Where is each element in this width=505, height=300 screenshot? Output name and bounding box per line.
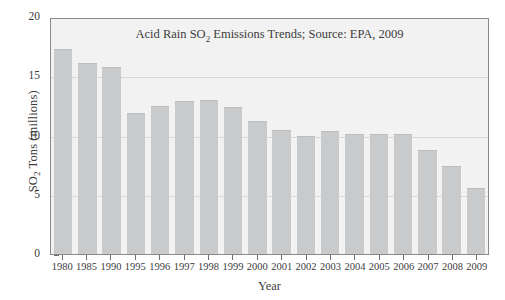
x-tick-label: 1990	[100, 261, 121, 272]
bar[interactable]	[127, 113, 145, 254]
x-tick-mark	[110, 255, 111, 260]
x-axis-tickmarks	[50, 255, 489, 260]
bar-slot	[221, 19, 245, 254]
bar-series	[51, 19, 488, 254]
x-tick-mark	[257, 255, 258, 260]
bar[interactable]	[78, 63, 96, 254]
bar-slot	[124, 19, 148, 254]
x-tick-slot	[148, 255, 172, 260]
y-tick-label: 5	[14, 188, 40, 200]
x-tick-mark	[452, 255, 453, 260]
y-tick-label: 10	[14, 129, 40, 141]
x-label-slot: 2009	[465, 261, 489, 272]
x-label-slot: 2006	[391, 261, 415, 272]
x-tick-slot	[245, 255, 269, 260]
bar-slot	[148, 19, 172, 254]
x-tick-slot	[343, 255, 367, 260]
bar-slot	[270, 19, 294, 254]
x-label-slot: 2000	[245, 261, 269, 272]
x-label-slot: 2007	[416, 261, 440, 272]
x-label-slot: 1997	[172, 261, 196, 272]
x-tick-slot	[270, 255, 294, 260]
x-label-slot: 1998	[196, 261, 220, 272]
x-tick-label: 2009	[466, 261, 487, 272]
bar-slot	[294, 19, 318, 254]
bar[interactable]	[272, 130, 290, 254]
x-label-slot: 1996	[148, 261, 172, 272]
x-tick-slot	[50, 255, 74, 260]
bar-slot	[51, 19, 75, 254]
x-axis-title: Year	[50, 279, 489, 294]
x-tick-label: 2000	[247, 261, 268, 272]
x-tick-label: 2008	[442, 261, 463, 272]
x-tick-slot	[172, 255, 196, 260]
chart-title: Acid Rain SO2 Emissions Trends; Source: …	[50, 27, 489, 44]
bar[interactable]	[175, 101, 193, 254]
y-tick-label: 0	[14, 247, 40, 259]
x-tick-mark	[403, 255, 404, 260]
bar-slot	[342, 19, 366, 254]
x-tick-mark	[62, 255, 63, 260]
x-tick-slot	[440, 255, 464, 260]
x-tick-label: 2006	[393, 261, 414, 272]
x-tick-slot	[221, 255, 245, 260]
x-label-slot: 1985	[74, 261, 98, 272]
x-tick-label: 2007	[418, 261, 439, 272]
x-tick-slot	[318, 255, 342, 260]
x-tick-mark	[379, 255, 380, 260]
bar[interactable]	[102, 67, 120, 254]
x-tick-slot	[123, 255, 147, 260]
x-tick-slot	[391, 255, 415, 260]
plot-area	[50, 18, 489, 255]
x-label-slot: 1999	[221, 261, 245, 272]
bar[interactable]	[248, 121, 266, 254]
x-tick-mark	[281, 255, 282, 260]
bar[interactable]	[370, 134, 388, 254]
x-label-slot: 1995	[123, 261, 147, 272]
x-tick-label: 1995	[125, 261, 146, 272]
x-tick-mark	[232, 255, 233, 260]
bar[interactable]	[321, 131, 339, 254]
x-tick-label: 1980	[52, 261, 73, 272]
x-axis-tick-labels: 1980198519901995199619971998199920002001…	[50, 261, 489, 272]
bar[interactable]	[418, 150, 436, 254]
bar[interactable]	[297, 136, 315, 255]
bar-slot	[415, 19, 439, 254]
bar[interactable]	[394, 134, 412, 254]
bar[interactable]	[224, 107, 242, 254]
x-tick-mark	[184, 255, 185, 260]
x-tick-slot	[465, 255, 489, 260]
x-tick-mark	[306, 255, 307, 260]
x-label-slot: 1990	[99, 261, 123, 272]
x-tick-label: 2002	[296, 261, 317, 272]
bar[interactable]	[200, 100, 218, 254]
x-tick-mark	[354, 255, 355, 260]
x-tick-mark	[208, 255, 209, 260]
bar[interactable]	[467, 188, 485, 254]
x-label-slot: 2008	[440, 261, 464, 272]
bar-slot	[391, 19, 415, 254]
x-tick-slot	[74, 255, 98, 260]
x-tick-mark	[86, 255, 87, 260]
bar-slot	[464, 19, 488, 254]
x-label-slot: 2002	[294, 261, 318, 272]
bar-slot	[367, 19, 391, 254]
y-axis-ticks: 05101520	[10, 0, 40, 300]
x-tick-label: 1996	[149, 261, 170, 272]
x-tick-mark	[330, 255, 331, 260]
bar[interactable]	[442, 166, 460, 254]
x-tick-mark	[159, 255, 160, 260]
x-label-slot: 2001	[270, 261, 294, 272]
x-label-slot: 2003	[318, 261, 342, 272]
x-label-slot: 2004	[343, 261, 367, 272]
x-label-slot: 2005	[367, 261, 391, 272]
bar-slot	[100, 19, 124, 254]
bar[interactable]	[345, 134, 363, 254]
x-tick-mark	[428, 255, 429, 260]
x-tick-slot	[196, 255, 220, 260]
bar[interactable]	[54, 49, 72, 254]
bar-slot	[245, 19, 269, 254]
bar-slot	[197, 19, 221, 254]
bar[interactable]	[151, 106, 169, 254]
bar-slot	[172, 19, 196, 254]
